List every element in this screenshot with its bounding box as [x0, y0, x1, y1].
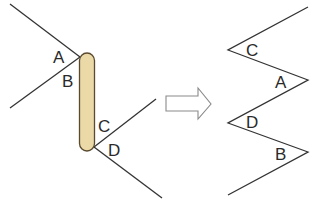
label-c-left: C	[98, 117, 110, 136]
zigzag-line	[228, 7, 308, 195]
label-b-left: B	[62, 72, 73, 91]
label-b-right: B	[275, 145, 286, 164]
label-a-left: A	[53, 48, 65, 67]
right-figure: C A D B	[228, 7, 308, 195]
right-arrow-outline-icon	[166, 88, 211, 119]
vertical-rod	[80, 53, 95, 151]
label-a-right: A	[275, 73, 287, 92]
label-d-right: D	[246, 113, 258, 132]
angle-transformation-diagram: A B C D C A D B	[0, 0, 326, 207]
left-lower-line-bottom	[94, 147, 162, 198]
left-figure: A B C D	[10, 4, 162, 198]
label-c-right: C	[246, 41, 258, 60]
label-d-left: D	[108, 141, 120, 160]
left-upper-line-top	[10, 4, 80, 57]
